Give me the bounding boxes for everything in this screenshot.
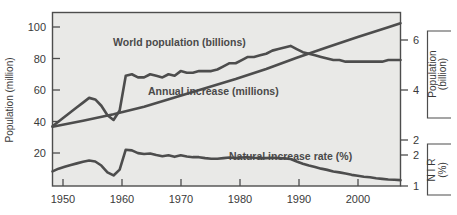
right-lower-tick-label-1: 1 — [413, 180, 419, 192]
chart-figure: 100 80 60 40 20 Population (million) 195… — [0, 0, 457, 215]
right-lower-axis: 2 1 N I R (%) — [401, 144, 452, 195]
left-tick-label-60: 60 — [34, 84, 46, 96]
right-upper-tick-label-6: 6 — [413, 34, 419, 46]
right-upper-tick-label-2: 2 — [413, 134, 419, 146]
right-lower-axis-title-line1: N I R — [426, 159, 437, 182]
left-tick-label-80: 80 — [34, 53, 46, 65]
x-tick-label-1960: 1960 — [110, 193, 134, 205]
population-chart: 100 80 60 40 20 Population (million) 195… — [0, 0, 457, 215]
annual-increase-annotation: Annual increase (millions) — [148, 85, 279, 97]
x-tick-label-2000: 2000 — [346, 193, 370, 205]
right-lower-axis-title-line2: (%) — [437, 162, 448, 178]
left-tick-label-100: 100 — [28, 21, 46, 33]
right-upper-tick-label-4: 4 — [413, 84, 419, 96]
world-population-annotation: World population (billions) — [113, 36, 246, 48]
x-tick-label-1950: 1950 — [51, 193, 75, 205]
x-tick-label-1970: 1970 — [169, 193, 193, 205]
right-upper-axis-title-line2: (billion) — [437, 58, 448, 90]
left-axis-title: Population (million) — [4, 57, 15, 142]
x-tick-label-1990: 1990 — [287, 193, 311, 205]
right-upper-axis: 6 4 2 Population (billion) — [401, 31, 452, 146]
left-tick-label-40: 40 — [34, 116, 46, 128]
right-lower-tick-label-2: 2 — [413, 149, 419, 161]
natural-increase-rate-annotation: Natural increase rate (%) — [229, 150, 352, 162]
x-tick-label-1980: 1980 — [228, 193, 252, 205]
left-axis: 100 80 60 40 20 Population (million) — [4, 21, 60, 159]
left-tick-label-20: 20 — [34, 147, 46, 159]
